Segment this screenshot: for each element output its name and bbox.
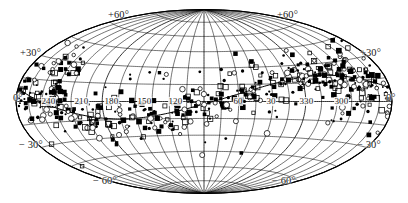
source-marker — [130, 114, 135, 119]
source-marker — [298, 86, 303, 91]
source-marker — [26, 77, 31, 82]
source-marker — [280, 62, 283, 65]
source-marker — [369, 72, 375, 78]
source-marker — [65, 40, 70, 45]
source-marker — [346, 111, 351, 116]
source-marker — [33, 78, 37, 82]
source-marker — [305, 62, 309, 66]
source-marker — [264, 130, 270, 136]
source-marker — [58, 116, 63, 121]
source-marker — [159, 124, 163, 128]
sky-map-figure: +60° +60° +30° +30° 0° 0° − 30° − 30° − … — [0, 0, 408, 203]
source-marker — [284, 83, 287, 86]
source-marker — [280, 77, 284, 81]
label-lon-300: 300 — [334, 97, 349, 106]
source-marker — [56, 59, 61, 64]
source-marker — [58, 79, 62, 83]
source-marker — [321, 96, 324, 99]
source-marker — [360, 101, 362, 103]
source-marker — [104, 86, 106, 88]
source-marker — [52, 61, 55, 64]
label-lon-210: 210 — [74, 97, 89, 106]
source-marker — [96, 135, 102, 141]
source-marker — [198, 87, 202, 91]
source-marker — [367, 133, 372, 138]
source-marker — [219, 68, 223, 72]
source-marker — [239, 151, 243, 155]
source-marker — [54, 110, 59, 115]
source-marker — [64, 130, 66, 132]
label-lat-minus30-left: − 30° — [19, 140, 43, 151]
source-marker — [296, 69, 299, 72]
source-marker — [23, 98, 25, 100]
source-marker — [124, 120, 126, 122]
source-marker — [55, 115, 59, 119]
source-marker — [269, 76, 272, 79]
source-marker — [118, 113, 122, 117]
source-marker — [331, 119, 333, 121]
source-marker — [68, 116, 74, 122]
source-marker — [287, 67, 289, 69]
source-marker — [207, 101, 210, 104]
source-marker — [229, 108, 232, 111]
source-marker — [156, 129, 161, 134]
source-marker — [63, 98, 67, 102]
source-marker — [375, 86, 379, 90]
source-marker — [195, 111, 198, 114]
label-lat-plus30-left: +30° — [20, 48, 41, 59]
source-marker — [352, 107, 355, 110]
source-marker — [387, 104, 391, 108]
source-marker — [340, 63, 345, 68]
source-marker — [382, 86, 384, 88]
source-marker — [361, 104, 365, 108]
source-marker — [355, 102, 359, 106]
source-marker — [60, 111, 63, 114]
source-marker — [227, 96, 230, 99]
source-marker — [210, 97, 214, 101]
source-marker — [200, 153, 205, 158]
source-marker — [85, 125, 90, 130]
label-lat-plus30-right: +30° — [360, 48, 381, 59]
source-marker — [174, 109, 179, 114]
source-marker — [204, 141, 206, 143]
source-marker — [232, 71, 236, 75]
source-marker — [320, 66, 322, 68]
source-marker — [169, 123, 173, 127]
source-marker — [201, 91, 206, 96]
source-marker — [188, 119, 193, 124]
source-marker — [64, 93, 68, 97]
source-marker — [336, 74, 339, 77]
source-marker — [322, 73, 327, 78]
source-marker — [58, 89, 63, 94]
source-marker — [286, 78, 291, 83]
source-marker — [330, 38, 335, 43]
source-marker — [338, 79, 343, 84]
source-marker — [327, 64, 330, 67]
source-marker — [303, 68, 305, 70]
source-marker — [297, 63, 300, 66]
source-marker — [95, 113, 100, 118]
source-marker — [64, 113, 66, 115]
source-marker — [129, 98, 134, 103]
source-marker — [349, 78, 352, 81]
source-marker — [128, 125, 130, 127]
source-marker — [341, 112, 344, 115]
source-marker — [302, 77, 305, 80]
label-lat-zero-right: 0° — [386, 93, 396, 104]
source-marker — [129, 74, 131, 76]
source-marker — [45, 93, 47, 95]
source-marker — [336, 48, 342, 54]
source-marker — [66, 110, 70, 114]
source-marker — [143, 109, 146, 112]
source-marker — [36, 116, 40, 120]
source-marker — [313, 78, 319, 84]
source-marker — [75, 45, 79, 49]
source-marker — [324, 82, 328, 86]
source-marker — [36, 84, 38, 86]
source-marker — [209, 117, 211, 119]
source-marker — [119, 89, 124, 94]
label-lon-60: 60 — [233, 97, 243, 106]
source-marker — [358, 86, 361, 89]
source-marker — [249, 59, 254, 64]
source-marker — [39, 106, 41, 108]
